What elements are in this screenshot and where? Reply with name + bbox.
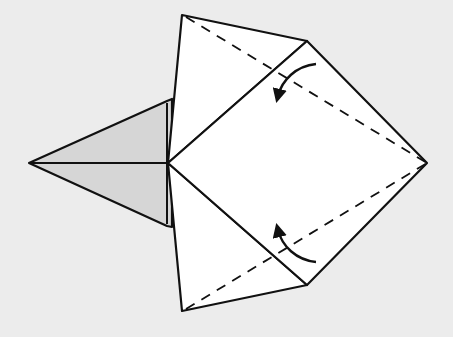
left-flap [29,99,172,227]
origami-diagram [0,0,453,337]
